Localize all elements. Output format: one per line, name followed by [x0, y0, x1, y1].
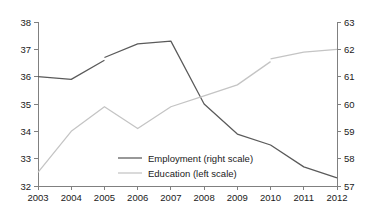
left-tick-label: 36: [20, 71, 31, 82]
x-tick-label: 2005: [94, 192, 115, 203]
chart-legend: Employment (right scale)Education (left …: [118, 153, 253, 179]
left-axis-ticks: 32333435363738: [20, 17, 38, 192]
x-tick-label: 2007: [160, 192, 181, 203]
right-tick-label: 62: [344, 44, 355, 55]
series-line-employment: [38, 60, 104, 79]
x-axis-ticks: 2003200420052006200720082009201020112012: [27, 186, 347, 203]
x-axis: 2003200420052006200720082009201020112012: [27, 186, 347, 203]
chart-container: 32333435363738 57585960616263 2003200420…: [0, 0, 377, 213]
x-tick-label: 2003: [27, 192, 48, 203]
right-tick-label: 61: [344, 71, 355, 82]
line-chart: 32333435363738 57585960616263 2003200420…: [0, 0, 377, 213]
x-tick-label: 2010: [260, 192, 281, 203]
x-tick-label: 2009: [227, 192, 248, 203]
right-tick-label: 58: [344, 153, 355, 164]
right-tick-label: 60: [344, 99, 355, 110]
right-tick-label: 57: [344, 181, 355, 192]
left-tick-label: 37: [20, 44, 31, 55]
legend-label: Employment (right scale): [148, 153, 253, 164]
right-tick-label: 63: [344, 17, 355, 28]
legend-label: Education (left scale): [148, 168, 237, 179]
left-tick-label: 32: [20, 181, 31, 192]
left-axis: 32333435363738: [20, 17, 38, 192]
left-tick-label: 33: [20, 153, 31, 164]
right-axis: 57585960616263: [337, 17, 355, 192]
x-tick-label: 2012: [326, 192, 347, 203]
x-tick-label: 2008: [194, 192, 215, 203]
x-tick-label: 2011: [294, 192, 314, 203]
series-line-education: [271, 49, 337, 59]
right-axis-ticks: 57585960616263: [337, 17, 355, 192]
left-tick-label: 34: [20, 126, 31, 137]
left-tick-label: 35: [20, 99, 31, 110]
x-tick-label: 2006: [127, 192, 148, 203]
x-tick-label: 2004: [61, 192, 82, 203]
left-tick-label: 38: [20, 17, 31, 28]
right-tick-label: 59: [344, 126, 355, 137]
